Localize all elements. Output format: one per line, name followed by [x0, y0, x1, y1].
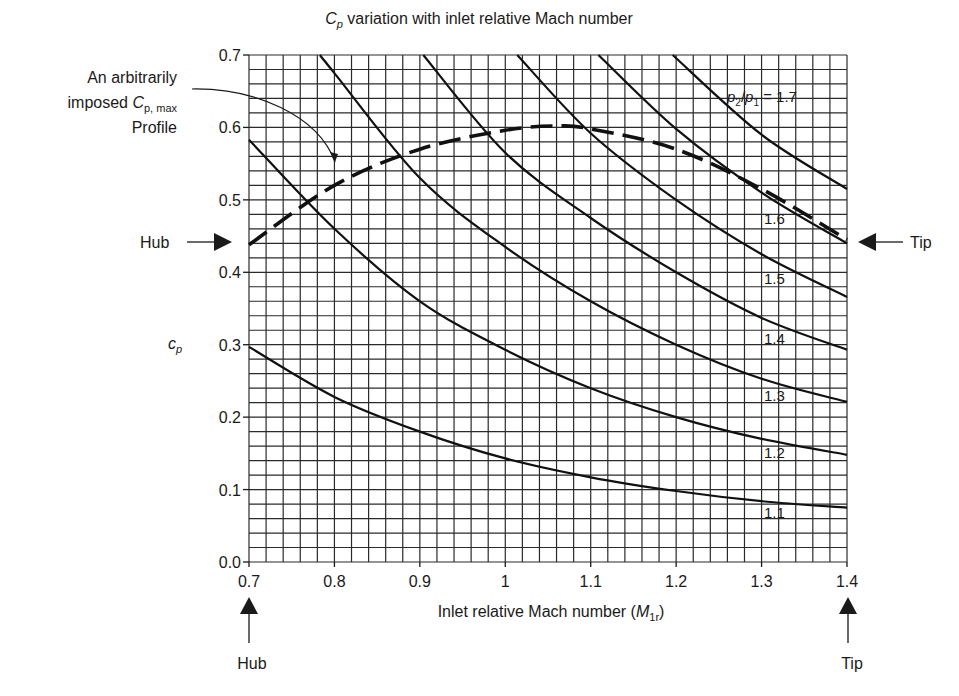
- y-tick-label: 0.0: [219, 554, 241, 571]
- annotation-line-1: An arbitrarily: [87, 69, 177, 86]
- curve-label-1-5: 1.5: [764, 270, 785, 287]
- x-tick-label: 1.4: [836, 573, 858, 590]
- x-tick-label: 1.1: [580, 573, 602, 590]
- chart-title: Cp variation with inlet relative Mach nu…: [325, 10, 633, 30]
- x-axis-label: Inlet relative Mach number (M1r): [438, 603, 665, 623]
- y-tick-label: 0.1: [219, 482, 241, 499]
- y-tick-label: 0.6: [219, 119, 241, 136]
- curve-label-1-2: 1.2: [764, 444, 785, 461]
- tip-label-right: Tip: [910, 234, 932, 251]
- y-axis-label: cp: [168, 335, 182, 355]
- curve-label-1-1: 1.1: [764, 504, 785, 521]
- x-tick-label: 1: [501, 573, 510, 590]
- y-tick-label: 0.5: [219, 192, 241, 209]
- y-tick-label: 0.2: [219, 409, 241, 426]
- annotation-arrow: [192, 89, 335, 162]
- arrow-left-icon: [858, 233, 876, 251]
- arrow-up-icon: [240, 597, 258, 614]
- annotation-line-2: imposed Cp, max: [68, 94, 178, 114]
- hub-label-left: Hub: [140, 234, 169, 251]
- y-tick-label: 0.3: [219, 337, 241, 354]
- x-tick-label: 0.9: [409, 573, 431, 590]
- x-tick-label: 0.8: [323, 573, 345, 590]
- pressure-ratio-curve: [673, 55, 847, 189]
- curve-label-1-3: 1.3: [764, 387, 785, 404]
- tip-marker-bottom: Tip: [839, 597, 863, 672]
- x-tick-label: 0.7: [238, 573, 260, 590]
- tip-marker-right: Tip: [858, 233, 932, 251]
- x-tick-label: 1.2: [665, 573, 687, 590]
- hub-label-bottom: Hub: [237, 655, 266, 672]
- curves: [249, 55, 847, 508]
- profile-annotation: An arbitrarily imposed Cp, max Profile: [68, 69, 339, 162]
- pressure-ratio-curve: [517, 55, 847, 297]
- arrow-up-icon: [839, 597, 857, 614]
- y-tick-label: 0.7: [219, 47, 241, 64]
- annotation-line-3: Profile: [132, 119, 177, 136]
- x-tick-label: 1.3: [750, 573, 772, 590]
- hub-marker-left: Hub: [140, 233, 232, 251]
- curve-label-1-4: 1.4: [764, 330, 785, 347]
- chart: 0.70.80.911.11.21.31.40.00.10.20.30.40.5…: [0, 0, 959, 696]
- tip-label-bottom: Tip: [841, 655, 863, 672]
- curve-label-1-6: 1.6: [764, 210, 785, 227]
- hub-marker-bottom: Hub: [237, 597, 266, 672]
- arrow-right-icon: [214, 233, 232, 251]
- y-tick-label: 0.4: [219, 264, 241, 281]
